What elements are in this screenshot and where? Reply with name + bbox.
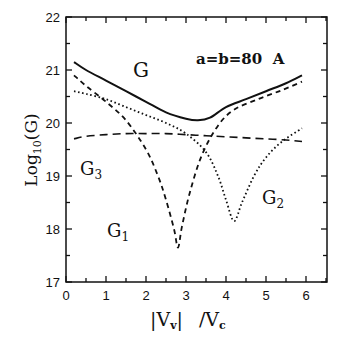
chart: 0123456171819202122 G G1 G2 G3 a=b=80 A … [0,0,339,339]
y-tick-label: 20 [46,116,60,131]
label-G1: G1 [107,220,129,244]
y-tick-label: 18 [46,222,60,237]
x-axis-label: |Vv|/Vc [150,308,226,332]
y-axis-label: Log10(G) [21,113,44,186]
x-tick-label: 2 [142,288,149,303]
x-tick-label: 0 [62,288,69,303]
x-tick-label: 3 [182,288,189,303]
y-tick-label: 21 [46,63,60,78]
x-tick-label: 1 [102,288,109,303]
y-tick-label: 22 [46,10,60,25]
label-G2: G2 [262,187,284,211]
x-tick-label: 5 [262,288,269,303]
label-G: G [133,58,149,82]
y-tick-label: 19 [46,169,60,184]
annotation: a=b=80 A [196,50,285,68]
x-tick-label: 6 [302,288,309,303]
x-tick-label: 4 [222,288,229,303]
curve-G [74,62,302,120]
y-tick-label: 17 [46,275,60,290]
label-G3: G3 [80,158,102,182]
